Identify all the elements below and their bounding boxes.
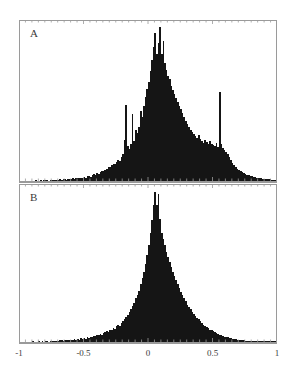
panel-b-label: B <box>30 192 38 203</box>
x-tick-label-neg1: -1 <box>15 348 23 358</box>
panel-a-histogram <box>19 20 277 183</box>
panel-a: A <box>19 20 277 183</box>
panel-b: B <box>19 184 277 344</box>
histogram-figure: A B -1-0.500.51 <box>0 0 296 377</box>
panel-a-label: A <box>30 28 38 39</box>
x-tick-label-1: 1 <box>275 348 280 358</box>
x-axis-tick-labels: -1-0.500.51 <box>0 348 296 364</box>
x-tick-label-0: 0 <box>146 348 151 358</box>
x-tick-label-neg0p5: -0.5 <box>76 348 90 358</box>
panel-b-histogram <box>19 184 277 344</box>
x-tick-label-0p5: 0.5 <box>207 348 218 358</box>
